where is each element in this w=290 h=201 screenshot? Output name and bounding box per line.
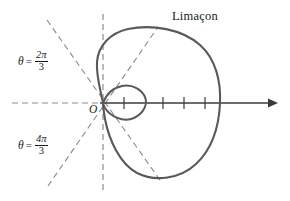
equals-sign: =: [26, 56, 32, 67]
x-axis-arrowhead-icon: [268, 99, 278, 108]
fraction-denominator: 3: [38, 62, 45, 73]
fraction-4pi-over-3: 4π 3: [35, 134, 48, 157]
fraction-numerator: 4π: [35, 134, 48, 145]
annotation-theta-2pi-over-3: θ = 2π 3: [18, 50, 48, 73]
chart-title: Limaçon: [172, 10, 218, 23]
annotation-theta-4pi-over-3: θ = 4π 3: [18, 134, 48, 157]
limacon-plot-svg: [0, 0, 290, 201]
limacon-figure: Limaçon O θ = 2π 3 θ = 4π 3: [0, 0, 290, 201]
equals-sign: =: [26, 140, 32, 151]
theta-symbol: θ: [18, 56, 24, 68]
origin-label: O: [89, 104, 97, 116]
theta-symbol: θ: [18, 140, 24, 152]
fraction-denominator: 3: [38, 146, 45, 157]
fraction-numerator: 2π: [35, 50, 48, 61]
fraction-2pi-over-3: 2π 3: [35, 50, 48, 73]
